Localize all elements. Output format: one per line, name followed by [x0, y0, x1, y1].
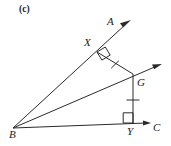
point-label-g: G: [137, 77, 145, 88]
ray-bg-arrowhead: [152, 64, 162, 69]
geometry-figure: (c) A X G B Y C: [0, 0, 171, 146]
figure-canvas: [0, 0, 171, 146]
part-label: (c): [19, 5, 30, 15]
ray-bg-line: [13, 66, 157, 128]
point-label-c: C: [153, 122, 160, 133]
point-label-b: B: [9, 129, 16, 140]
ray-ba-line: [13, 24, 126, 128]
point-label-x: X: [84, 37, 91, 48]
ray-bc-arrowhead: [143, 120, 151, 125]
right-angle-marker-y: [123, 113, 133, 123]
point-label-a: A: [107, 16, 114, 27]
ray-ba-arrowhead: [120, 20, 131, 27]
segment-gx-line: [97, 52, 133, 74]
point-label-y: Y: [127, 126, 133, 137]
